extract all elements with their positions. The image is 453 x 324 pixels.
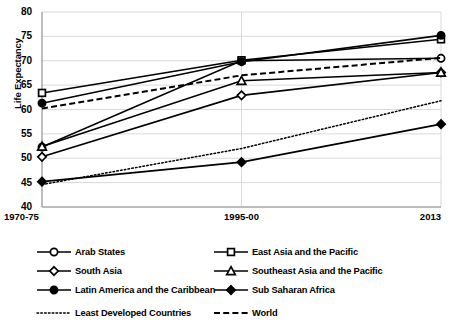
legend-item-label: World bbox=[252, 308, 277, 318]
legend-item-label: Southeast Asia and the Pacific bbox=[252, 266, 383, 276]
data-point-square-open bbox=[39, 90, 46, 97]
legend-item[interactable]: Arab States bbox=[36, 244, 125, 260]
legend-item[interactable]: Latin America and the Caribbean bbox=[36, 282, 215, 298]
data-point-diamond-open bbox=[50, 267, 58, 275]
legend-item-label: Least Developed Countries bbox=[75, 308, 191, 318]
data-point-triangle-open bbox=[38, 142, 47, 150]
data-point-circle-filled bbox=[38, 100, 45, 107]
data-point-diamond-open bbox=[237, 91, 245, 99]
data-point-diamond-filled bbox=[437, 120, 445, 128]
legend-item[interactable]: Least Developed Countries bbox=[36, 305, 191, 321]
data-point-circle-open bbox=[50, 248, 57, 255]
gridlines bbox=[42, 12, 441, 207]
legend-key-diamond-filled-icon bbox=[213, 283, 249, 297]
legend-item[interactable]: Sub Saharan Africa bbox=[213, 282, 335, 298]
data-point-diamond-filled bbox=[227, 286, 235, 294]
legend-item[interactable]: East Asia and the Pacific bbox=[213, 244, 358, 260]
data-point-diamond-open bbox=[38, 153, 46, 161]
legend-key-square-open-icon bbox=[213, 245, 249, 259]
data-point-circle-filled bbox=[50, 286, 57, 293]
legend-item-label: Latin America and the Caribbean bbox=[75, 285, 215, 295]
chart-legend: Arab StatesEast Asia and the PacificSout… bbox=[0, 236, 453, 324]
data-point-triangle-open bbox=[237, 76, 246, 84]
legend-item-label: East Asia and the Pacific bbox=[252, 247, 358, 257]
data-point-circle-filled bbox=[238, 58, 245, 65]
legend-item-label: South Asia bbox=[75, 266, 122, 276]
data-point-triangle-open bbox=[437, 68, 446, 76]
legend-item[interactable]: South Asia bbox=[36, 263, 122, 279]
legend-key-dotted-icon bbox=[36, 306, 72, 320]
legend-item-label: Arab States bbox=[75, 247, 125, 257]
legend-key-diamond-open-icon bbox=[36, 264, 72, 278]
data-point-circle-filled bbox=[437, 32, 444, 39]
data-point-square-open bbox=[228, 249, 235, 256]
data-point-diamond-filled bbox=[237, 158, 245, 166]
legend-item-label: Sub Saharan Africa bbox=[252, 285, 335, 295]
data-point-triangle-open bbox=[227, 267, 236, 275]
legend-key-triangle-open-icon bbox=[213, 264, 249, 278]
legend-key-circle-filled-icon bbox=[36, 283, 72, 297]
legend-item[interactable]: Southeast Asia and the Pacific bbox=[213, 263, 383, 279]
life-expectancy-line-chart: Life Expectancy 807570656055504540 1970-… bbox=[0, 0, 453, 324]
legend-key-dashed-icon bbox=[213, 306, 249, 320]
legend-item[interactable]: World bbox=[213, 305, 277, 321]
legend-key-circle-open-icon bbox=[36, 245, 72, 259]
